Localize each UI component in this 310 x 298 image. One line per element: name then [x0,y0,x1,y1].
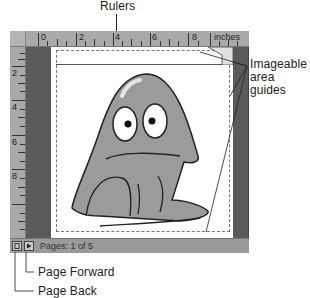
page-forward-callout: Page Forward [38,266,115,279]
callout-leader-lines [0,0,310,298]
page-back-callout: Page Back [38,285,97,298]
